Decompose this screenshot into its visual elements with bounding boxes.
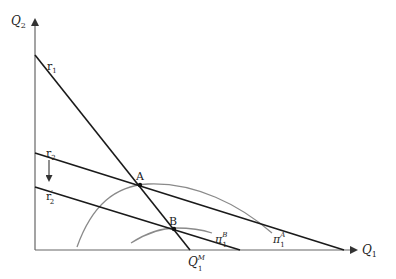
reaction-line-r2-prime [35, 187, 240, 250]
reaction-function-diagram: Q2 Q1 r1 r2 r′2 A B πB1 πA1 QM1 [0, 0, 396, 279]
point-A-marker [138, 183, 142, 187]
r2-prime-label: r′2 [46, 189, 54, 206]
pi1A-label: πA1 [272, 231, 285, 249]
y-axis-label: Q2 [11, 14, 26, 30]
point-A-label: A [135, 170, 145, 183]
reaction-line-r1 [35, 55, 190, 250]
monopoly-output-label: QM1 [188, 254, 206, 273]
point-B-label: B [169, 215, 177, 228]
r1-label: r1 [47, 60, 57, 75]
isoprofit-curve-pi1B [131, 228, 212, 243]
pi1B-label: πB1 [214, 231, 227, 249]
x-axis-label: Q1 [362, 243, 377, 259]
r2-label: r2 [46, 147, 56, 162]
